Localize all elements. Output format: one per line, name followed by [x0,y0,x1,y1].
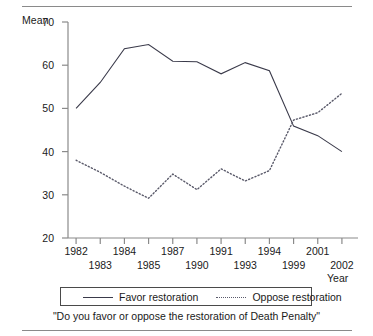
x-axis-ticks [76,238,342,244]
x-tick-label: 2001 [301,245,335,257]
legend-label-favor: Favor restoration [119,291,198,303]
chart-legend: Favor restoration Oppose restoration [60,287,312,306]
line-chart-plot [0,0,373,336]
x-tick-label: 1990 [180,259,214,271]
legend-item-oppose: Oppose restoration [216,291,341,303]
dotted-line-swatch-icon [216,293,246,301]
chart-axes [68,22,358,238]
y-tick-label: 70 [32,16,54,28]
legend-label-oppose: Oppose restoration [252,291,341,303]
x-tick-label: 1994 [252,245,286,257]
series-line-favor-restoration [76,44,342,151]
series-line-oppose-restoration [76,93,342,198]
y-axis-ticks [62,22,68,238]
y-tick-label: 50 [32,102,54,114]
x-tick-label: 1983 [83,259,117,271]
x-tick-label: 1985 [132,259,166,271]
chart-caption: "Do you favor or oppose the restoration … [0,310,373,322]
x-tick-label: 1984 [107,245,141,257]
x-tick-label: 2002 [325,259,359,271]
y-tick-label: 20 [32,232,54,244]
x-tick-label: 1993 [228,259,262,271]
x-tick-label: 1999 [277,259,311,271]
legend-item-favor: Favor restoration [83,291,198,303]
solid-line-swatch-icon [83,293,113,301]
y-tick-label: 60 [32,59,54,71]
x-tick-label: 1982 [59,245,93,257]
data-series-layer [76,44,342,198]
x-tick-label: 1987 [156,245,190,257]
x-axis-title: Year [327,272,348,284]
x-tick-label: 1991 [204,245,238,257]
y-tick-label: 40 [32,146,54,158]
y-tick-label: 30 [32,189,54,201]
